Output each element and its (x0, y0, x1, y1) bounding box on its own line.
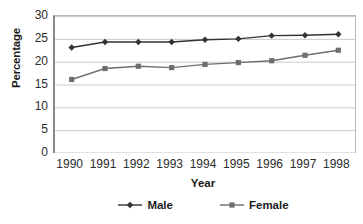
x-tick-label: 1998 (316, 158, 356, 170)
series-female (69, 48, 341, 82)
data-point-marker (202, 37, 208, 43)
data-point-marker (302, 53, 307, 58)
data-point-marker (169, 65, 174, 70)
data-point-marker (268, 32, 274, 38)
square-marker-icon (219, 200, 245, 210)
chart-legend: MaleFemale (53, 196, 353, 214)
y-tick-label: 0 (26, 146, 48, 158)
series-male (68, 31, 341, 51)
legend-marker (229, 202, 234, 207)
data-point-marker (202, 62, 207, 67)
plot-svg (55, 16, 355, 153)
y-tick-label: 5 (26, 123, 48, 135)
legend-entry-female[interactable]: Female (219, 199, 289, 211)
data-point-marker (235, 36, 241, 42)
legend-entry-male[interactable]: Male (117, 199, 173, 211)
legend-label: Female (249, 199, 289, 211)
legend-marker (127, 202, 133, 208)
data-point-marker (69, 77, 74, 82)
data-point-marker (236, 60, 241, 65)
diamond-marker-icon (117, 200, 143, 210)
data-point-marker (136, 64, 141, 69)
plot-area (53, 15, 356, 153)
data-point-marker (336, 48, 341, 53)
y-tick-label: 15 (26, 78, 48, 90)
data-point-marker (302, 32, 308, 38)
data-point-marker (68, 44, 74, 50)
data-point-marker (269, 58, 274, 63)
data-point-marker (102, 66, 107, 71)
legend-label: Male (147, 199, 173, 211)
y-tick-label: 10 (26, 100, 48, 112)
data-point-marker (335, 31, 341, 37)
y-tick-label: 20 (26, 55, 48, 67)
y-tick-label: 25 (26, 32, 48, 44)
y-tick-label: 30 (26, 9, 48, 21)
x-axis-tick-labels: 199019911992199319941995199619971998 (53, 158, 353, 176)
line-chart: Percentage 051015202530 1990199119921993… (0, 0, 363, 224)
y-axis-title: Percentage (10, 10, 22, 106)
y-axis-tick-labels: 051015202530 (22, 0, 48, 224)
x-axis-title: Year (53, 177, 353, 189)
